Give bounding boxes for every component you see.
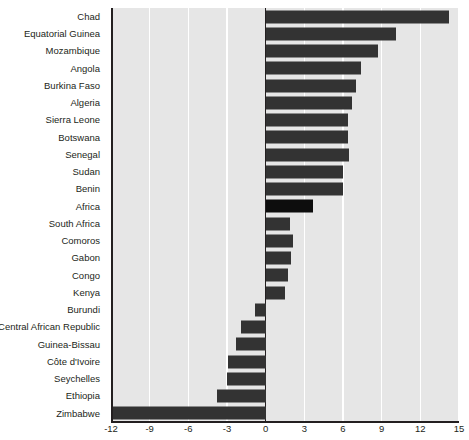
bar[interactable] <box>266 234 293 247</box>
category-label: Burundi <box>0 301 105 318</box>
x-tick-label: -9 <box>145 423 153 434</box>
x-tick-label: 3 <box>302 423 307 434</box>
category-label: Algeria <box>0 94 105 111</box>
bar[interactable] <box>266 148 350 161</box>
bar-row <box>111 388 459 405</box>
bar-row <box>111 8 459 25</box>
bar-row <box>111 43 459 60</box>
category-label: Comoros <box>0 232 105 249</box>
category-label: Botswana <box>0 129 105 146</box>
bar[interactable] <box>241 321 265 334</box>
bar-row <box>111 319 459 336</box>
x-tick-label: 12 <box>415 423 426 434</box>
bar-row <box>111 112 459 129</box>
bar[interactable] <box>266 131 348 144</box>
category-label: Benin <box>0 181 105 198</box>
bar[interactable] <box>255 303 265 316</box>
category-label: Sierra Leone <box>0 112 105 129</box>
category-label: Africa <box>0 198 105 215</box>
category-label: Guinea-Bissau <box>0 336 105 353</box>
bar[interactable] <box>266 114 348 127</box>
x-tick-label: 9 <box>379 423 384 434</box>
bar[interactable] <box>266 62 361 75</box>
bar-row <box>111 301 459 318</box>
category-label: Seychelles <box>0 370 105 387</box>
bar-row <box>111 405 459 422</box>
bar-chart: ChadEquatorial GuineaMozambiqueAngolaBur… <box>0 0 469 440</box>
bar[interactable] <box>266 79 356 92</box>
category-label: Burkina Faso <box>0 77 105 94</box>
category-label: Côte d'Ivoire <box>0 353 105 370</box>
bar-row <box>111 129 459 146</box>
bar[interactable] <box>266 165 343 178</box>
category-label: Mozambique <box>0 43 105 60</box>
bar[interactable] <box>266 45 378 58</box>
x-tick-label: -3 <box>223 423 231 434</box>
bar-row <box>111 284 459 301</box>
bar-row <box>111 181 459 198</box>
bar[interactable] <box>266 27 396 40</box>
y-axis-line <box>111 8 113 422</box>
category-label: Ethiopia <box>0 388 105 405</box>
category-label: Angola <box>0 60 105 77</box>
x-tick-label: 6 <box>340 423 345 434</box>
category-label: Senegal <box>0 146 105 163</box>
bar[interactable] <box>266 10 449 23</box>
bar[interactable] <box>266 269 288 282</box>
x-axis-tick-labels: -12-9-6-303691215 <box>0 423 469 440</box>
bar[interactable] <box>266 183 343 196</box>
x-tick-label: 0 <box>263 423 268 434</box>
bar-row <box>111 77 459 94</box>
bar[interactable] <box>236 338 266 351</box>
bar-row <box>111 250 459 267</box>
category-label: Gabon <box>0 250 105 267</box>
category-label: Central African Republic <box>0 319 105 336</box>
bar-row <box>111 232 459 249</box>
bar[interactable] <box>266 252 292 265</box>
bar[interactable] <box>266 96 352 109</box>
category-label: Congo <box>0 267 105 284</box>
bar[interactable] <box>217 390 266 403</box>
bar-row <box>111 215 459 232</box>
bar-row <box>111 267 459 284</box>
bar-row <box>111 94 459 111</box>
category-label: Equatorial Guinea <box>0 25 105 42</box>
bar-row <box>111 146 459 163</box>
bar[interactable] <box>266 200 314 213</box>
bar[interactable] <box>228 355 265 368</box>
bar-row <box>111 60 459 77</box>
x-tick-label: -6 <box>184 423 192 434</box>
category-label: South Africa <box>0 215 105 232</box>
bar-row <box>111 336 459 353</box>
cropped-title-text <box>0 0 469 2</box>
bar-row <box>111 198 459 215</box>
bar[interactable] <box>112 407 265 420</box>
bar[interactable] <box>227 372 266 385</box>
category-label: Chad <box>0 8 105 25</box>
bar-row <box>111 25 459 42</box>
category-label: Sudan <box>0 163 105 180</box>
bar[interactable] <box>266 217 290 230</box>
bar-row <box>111 163 459 180</box>
bar[interactable] <box>266 286 285 299</box>
plot-area <box>111 8 459 422</box>
category-label: Kenya <box>0 284 105 301</box>
category-label: Zimbabwe <box>0 405 105 422</box>
category-axis-labels: ChadEquatorial GuineaMozambiqueAngolaBur… <box>0 8 105 422</box>
x-tick-label: -12 <box>104 423 118 434</box>
bar-rows <box>111 8 459 422</box>
bar-row <box>111 353 459 370</box>
x-tick-label: 15 <box>454 423 465 434</box>
bar-row <box>111 370 459 387</box>
